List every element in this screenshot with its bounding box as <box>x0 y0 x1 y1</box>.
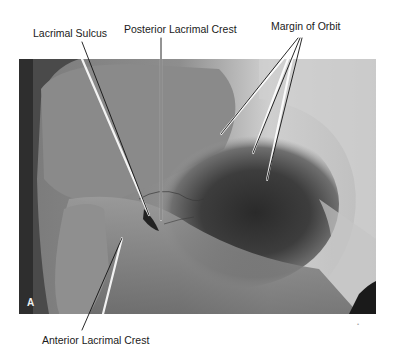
leader-lines <box>0 0 395 363</box>
anatomy-figure: A Lacrimal Sulcus Posterior Lacrimal Cre… <box>0 0 395 363</box>
leader-margin-of-orbit-3 <box>267 38 302 180</box>
label-lacrimal-sulcus: Lacrimal Sulcus <box>33 27 107 39</box>
corner-mark: • <box>357 321 359 327</box>
label-posterior-lacrimal-crest: Posterior Lacrimal Crest <box>124 23 237 35</box>
label-anterior-lacrimal-crest: Anterior Lacrimal Crest <box>42 334 149 346</box>
label-margin-of-orbit: Margin of Orbit <box>271 20 340 32</box>
leader-anterior-lacrimal-crest <box>82 238 122 330</box>
leader-lacrimal-sulcus <box>82 42 149 215</box>
